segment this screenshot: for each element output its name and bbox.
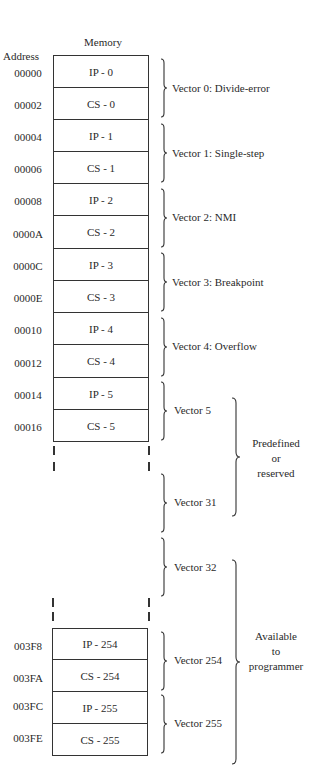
- memory-cell: CS - 255: [52, 724, 148, 756]
- memory-cell: IP - 1: [53, 120, 149, 152]
- address-cell: 003FA: [3, 672, 53, 684]
- memory-cell: IP - 254: [52, 628, 148, 660]
- memory-cell: CS - 254: [52, 660, 148, 692]
- brace-icon: [160, 473, 170, 533]
- brace-icon: [160, 123, 170, 183]
- memory-cell: CS - 3: [53, 281, 149, 313]
- memory-cell: CS - 5: [53, 410, 149, 442]
- address-cell: 0000E: [3, 292, 53, 304]
- address-cell: 003FC: [3, 700, 53, 712]
- continuation-dash: [148, 612, 150, 621]
- vector-label: Vector 3: Breakpoint: [172, 276, 264, 288]
- group-label-available: Available to programmer: [240, 629, 312, 674]
- vector-label: Vector 2: NMI: [172, 211, 236, 223]
- memory-cell: CS - 2: [53, 216, 149, 249]
- brace-icon: [160, 381, 170, 441]
- address-cell: 00004: [3, 131, 53, 143]
- continuation-dash: [148, 598, 150, 607]
- memory-cell: IP - 3: [53, 249, 149, 281]
- address-cell: 00014: [3, 389, 53, 401]
- vector-label: Vector 1: Single-step: [172, 147, 264, 159]
- continuation-dash: [53, 446, 55, 455]
- memory-cell: IP - 0: [53, 55, 149, 88]
- memory-cell: IP - 255: [52, 692, 148, 724]
- address-cell: 00010: [3, 324, 53, 336]
- brace-icon: [160, 317, 170, 377]
- address-cell: 00000: [3, 67, 53, 79]
- vector-label: Vector 31: [174, 496, 216, 508]
- vector-label: Vector 255: [174, 717, 222, 729]
- address-cell: 0000C: [3, 260, 53, 272]
- brace-icon: [160, 537, 170, 597]
- memory-cell: CS - 1: [53, 152, 149, 184]
- continuation-dash: [53, 462, 55, 471]
- vector-label: Vector 32: [174, 561, 216, 573]
- memory-cell: CS - 4: [53, 345, 149, 378]
- memory-cell: IP - 2: [53, 184, 149, 216]
- brace-icon: [160, 694, 170, 754]
- address-cell: 00012: [3, 357, 53, 369]
- continuation-dash: [148, 462, 150, 471]
- continuation-dash: [148, 446, 150, 455]
- group-label-predefined: Predefined or reserved: [240, 436, 312, 481]
- address-cell: 00016: [3, 421, 53, 433]
- address-cell: 00006: [3, 163, 53, 175]
- address-cell: 00008: [3, 195, 53, 207]
- vector-label: Vector 5: [174, 404, 211, 416]
- brace-icon: [160, 631, 170, 691]
- memory-cell: IP - 5: [53, 378, 149, 410]
- address-cell: 00002: [3, 99, 53, 111]
- memory-column-title: Memory: [84, 36, 122, 48]
- vector-label: Vector 4: Overflow: [172, 340, 257, 352]
- address-column-header: Address: [3, 50, 39, 62]
- vector-label: Vector 254: [174, 654, 222, 666]
- brace-icon: [160, 188, 170, 248]
- address-cell: 003F8: [3, 640, 53, 652]
- continuation-dash: [52, 598, 54, 607]
- brace-icon: [160, 252, 170, 312]
- continuation-dash: [52, 612, 54, 621]
- memory-cell: IP - 4: [53, 313, 149, 345]
- vector-label: Vector 0: Divide-error: [172, 82, 270, 94]
- address-cell: 0000A: [3, 228, 53, 240]
- address-cell: 003FE: [3, 732, 53, 744]
- memory-cell: CS - 0: [53, 88, 149, 120]
- brace-icon: [160, 58, 170, 118]
